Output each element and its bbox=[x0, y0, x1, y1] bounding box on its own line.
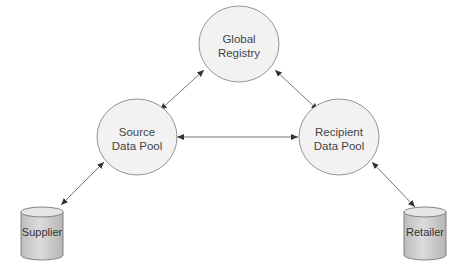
edge-recipient-global bbox=[275, 70, 318, 110]
node-label: Recipient bbox=[315, 126, 364, 138]
node-recipient-data-pool: Recipient Data Pool bbox=[299, 99, 379, 175]
node-label: Retailer bbox=[406, 226, 444, 238]
node-source-data-pool: Source Data Pool bbox=[97, 99, 177, 175]
edge-retailer-recipient bbox=[372, 162, 415, 207]
node-retailer: Retailer bbox=[404, 207, 446, 260]
node-label: Data Pool bbox=[112, 140, 163, 152]
node-label: Source bbox=[119, 126, 155, 138]
edge-source-global bbox=[160, 70, 204, 110]
node-label: Data Pool bbox=[314, 140, 365, 152]
node-label: Global bbox=[222, 33, 255, 45]
node-label: Supplier bbox=[22, 226, 63, 238]
diagram-canvas: Global Registry Source Data Pool Recipie… bbox=[0, 0, 470, 274]
edge-supplier-source bbox=[61, 162, 104, 205]
node-supplier: Supplier bbox=[21, 207, 63, 260]
node-label: Registry bbox=[218, 47, 260, 59]
node-global-registry: Global Registry bbox=[199, 6, 279, 82]
